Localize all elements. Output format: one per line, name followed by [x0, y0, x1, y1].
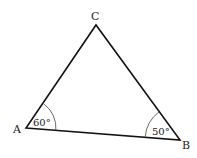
- triangle-diagram: A B C 60° 50°: [0, 0, 197, 158]
- vertex-label-c: C: [91, 10, 99, 23]
- vertex-label-a: A: [12, 123, 22, 136]
- vertex-label-b: B: [182, 139, 190, 152]
- angle-label-a: 60°: [33, 117, 51, 128]
- angle-label-b: 50°: [152, 126, 170, 137]
